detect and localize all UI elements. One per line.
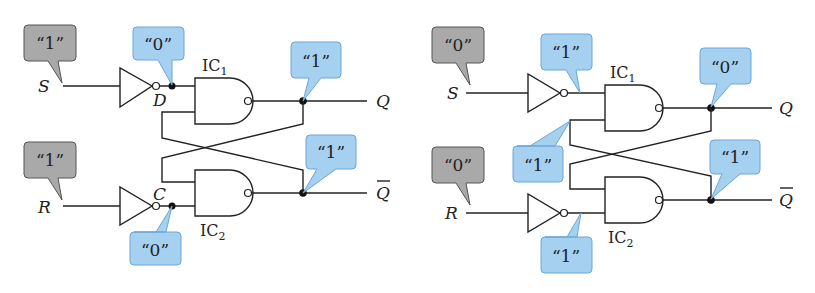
left-circuit: S D R C IC1 Q IC2 Q	[24, 25, 390, 265]
svg-text:“0”: “0”	[444, 35, 472, 55]
svg-text:“1”: “1”	[302, 51, 330, 71]
inverter-r-icon	[120, 187, 152, 225]
callout-q: “1”	[291, 42, 341, 101]
inverter-r-right-icon	[528, 194, 560, 232]
output-q-right-label: Q	[779, 98, 793, 118]
output-qbar-label: Q	[376, 183, 390, 203]
callout-q-right: “0”	[700, 48, 751, 107]
svg-text:“1”: “1”	[36, 33, 64, 53]
ic2-right-label: IC2	[608, 228, 634, 250]
input-r-label-right: R	[444, 203, 458, 223]
input-s-label-right: S	[447, 83, 459, 103]
ic1-right-label: IC1	[610, 63, 636, 85]
node-d-label: D	[152, 90, 167, 110]
node-c-label: C	[153, 184, 166, 204]
svg-text:“1”: “1”	[317, 142, 345, 162]
inverter-s-icon	[120, 68, 152, 107]
callout-s: “1”	[24, 25, 76, 83]
ic2-label: IC2	[200, 221, 226, 243]
output-q-label: Q	[376, 91, 390, 111]
callout-s-right: “0”	[432, 27, 484, 85]
svg-text:“0”: “0”	[444, 155, 472, 175]
callout-d: “0”	[133, 27, 184, 85]
inverter-s-right-icon	[528, 74, 560, 112]
callout-n2: “1”	[541, 213, 592, 273]
input-r-label: R	[37, 197, 51, 217]
callout-n1: “1”	[541, 34, 592, 93]
svg-text:“0”: “0”	[711, 57, 739, 77]
nand-ic2-right-icon	[605, 177, 663, 223]
callout-cross: “1”	[513, 121, 570, 182]
callout-qbar-right: “1”	[710, 140, 760, 199]
sr-latch-diagram: S D R C IC1 Q IC2 Q	[0, 0, 815, 293]
right-circuit: S R IC1 Q IC2 Q “0”	[432, 27, 793, 273]
nand-ic1-right-icon	[605, 85, 663, 131]
svg-text:“0”: “0”	[141, 240, 169, 260]
svg-text:“1”: “1”	[552, 42, 580, 62]
callout-r-right: “0”	[432, 147, 484, 205]
ic1-label: IC1	[202, 56, 228, 78]
svg-text:“1”: “1”	[524, 155, 552, 175]
svg-text:“1”: “1”	[36, 150, 64, 170]
svg-text:“1”: “1”	[552, 246, 580, 266]
callout-r: “1”	[24, 142, 76, 200]
input-s-label: S	[38, 76, 50, 96]
callout-qbar: “1”	[303, 135, 356, 193]
output-qbar-right-label: Q	[779, 190, 793, 210]
svg-text:“0”: “0”	[144, 34, 172, 54]
svg-text:“1”: “1”	[721, 147, 749, 167]
